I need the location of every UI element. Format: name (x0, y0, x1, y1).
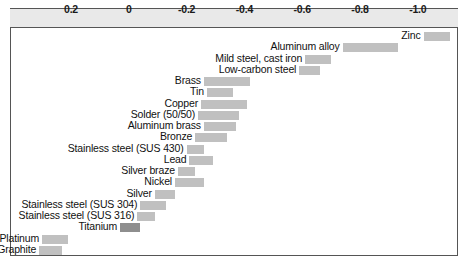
axis-tick-label-3: -0.4 (236, 3, 253, 15)
bar (207, 88, 233, 97)
bar-row: Low-carbon steel (0, 65, 470, 76)
bar-row-label: Zinc (401, 30, 423, 41)
bar-row: Copper (0, 99, 470, 110)
bar (155, 190, 175, 199)
axis-tick-label-6: -1.0 (409, 3, 426, 15)
bar (204, 122, 236, 131)
bar-row: Stainless steel (SUS 316) (0, 211, 470, 222)
bar-row: Silver braze (0, 166, 470, 177)
bar-row: Stainless steel (SUS 430) (0, 144, 470, 155)
bar-row-label: Titanium (78, 221, 120, 232)
bar-row: Solder (50/50) (0, 110, 470, 121)
bar (137, 212, 154, 221)
bar-row-label: Low-carbon steel (219, 64, 300, 75)
bar-row: Tin (0, 87, 470, 98)
bar (195, 133, 227, 142)
bar-row: Aluminum brass (0, 121, 470, 132)
bar (189, 156, 212, 165)
bar-row: Graphite (0, 245, 470, 256)
bar (305, 55, 331, 64)
bar-row-label: Graphite (0, 244, 39, 255)
bar-row: Titanium (0, 222, 470, 233)
bar-row: Platinum (0, 234, 470, 245)
bar (424, 32, 450, 41)
bar (39, 246, 62, 255)
bar (343, 43, 398, 52)
bar-row: Nickel (0, 177, 470, 188)
axis-tick-label-2: -0.2 (178, 3, 195, 15)
bar-row: Zinc (0, 31, 470, 42)
bar (140, 201, 166, 210)
galvanic-series-chart: 0.20-0.2-0.4-0.6-0.8-1.0 ZincAluminum al… (0, 0, 470, 265)
bar (201, 100, 247, 109)
bar (187, 145, 204, 154)
bar (120, 223, 140, 232)
bar (198, 111, 238, 120)
axis-tick-label-4: -0.6 (294, 3, 311, 15)
bar (204, 77, 250, 86)
bar (299, 66, 319, 75)
axis-tick-label-5: -0.8 (351, 3, 368, 15)
bar (175, 178, 204, 187)
bar-row: Lead (0, 155, 470, 166)
bar-row: Brass (0, 76, 470, 87)
axis-tick-label-0: 0.2 (64, 3, 78, 15)
bar (42, 235, 68, 244)
axis-tick-label-1: 0 (126, 3, 132, 15)
bar (178, 167, 195, 176)
